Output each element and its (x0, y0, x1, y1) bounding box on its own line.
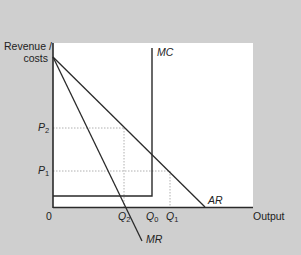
p2-letter: P (38, 121, 45, 133)
q1-letter: Q (166, 210, 174, 222)
q0-letter: Q (146, 210, 154, 222)
mr-label: MR (146, 234, 162, 245)
ar-label: AR (208, 195, 223, 206)
p1-letter: P (38, 164, 45, 176)
y-axis-label-line2: costs (4, 53, 48, 64)
p1-label: P1 (38, 165, 49, 178)
q2-letter: Q (118, 210, 126, 222)
q2-label: Q2 (118, 211, 130, 224)
q2-subscript: 2 (126, 215, 130, 224)
q1-label: Q1 (166, 211, 178, 224)
x-axis-label: Output (253, 211, 285, 222)
q1-subscript: 1 (174, 215, 178, 224)
ar-curve (53, 57, 205, 207)
q0-label: Q0 (146, 211, 158, 224)
p1-subscript: 1 (45, 169, 49, 178)
p2-label: P2 (38, 122, 49, 135)
p2-subscript: 2 (45, 126, 49, 135)
y-axis-label-line1: Revenue / (4, 41, 48, 52)
mc-label: MC (157, 47, 173, 58)
y-axis-label: Revenue / costs (4, 41, 48, 63)
mc-curve (53, 48, 152, 196)
origin-label: 0 (46, 211, 52, 222)
q0-subscript: 0 (154, 215, 158, 224)
